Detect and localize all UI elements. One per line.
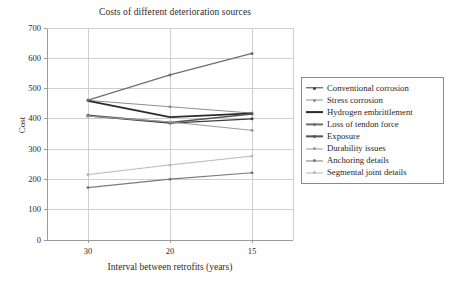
y-tick-label: 100: [11, 204, 41, 214]
data-point: [251, 52, 254, 55]
y-tick-label: 0: [11, 235, 41, 245]
legend-item-durability-issues[interactable]: Durability issues: [306, 142, 440, 154]
data-point: [87, 99, 90, 102]
legend-label: Conventional corrosion: [327, 83, 409, 94]
legend-label: Hydrogen embrittlement: [327, 107, 413, 118]
x-tick-label: 20: [155, 246, 185, 256]
y-tick-label: 300: [11, 144, 41, 154]
legend-label: Durability issues: [327, 143, 386, 154]
data-point: [251, 171, 254, 174]
legend-label: Stress corrosion: [327, 95, 383, 106]
chart-figure: Costs of different deterioration sources…: [0, 0, 456, 287]
legend-swatch-icon: [306, 131, 323, 142]
legend-item-stress-corrosion[interactable]: Stress corrosion: [306, 94, 440, 106]
data-point: [251, 113, 254, 116]
data-point: [87, 173, 90, 176]
legend-swatch-icon: [306, 83, 323, 94]
data-point: [87, 115, 90, 118]
data-point: [87, 186, 90, 189]
legend-label: Anchoring details: [327, 155, 389, 166]
legend-swatch-icon: [306, 143, 323, 154]
legend-swatch-icon: [306, 155, 323, 166]
legend-label: Segmental joint details: [327, 167, 407, 178]
data-point: [251, 129, 254, 132]
legend-label: Exposure: [327, 131, 360, 142]
legend-swatch-icon: [306, 107, 323, 118]
data-point: [169, 73, 172, 76]
data-point: [251, 155, 254, 158]
y-tick-label: 400: [11, 113, 41, 123]
legend-item-loss-of-tendon-force[interactable]: Loss of tendon force: [306, 118, 440, 130]
legend-label: Loss of tendon force: [327, 119, 399, 130]
y-tick-label: 200: [11, 174, 41, 184]
y-tick-label: 500: [11, 83, 41, 93]
legend-swatch-icon: [306, 167, 323, 178]
x-tick-label: 15: [237, 246, 267, 256]
data-point: [169, 120, 172, 123]
x-tick-label: 30: [73, 246, 103, 256]
legend-swatch-icon: [306, 119, 323, 130]
data-point: [169, 105, 172, 108]
legend-swatch-icon: [306, 95, 323, 106]
data-point: [251, 117, 254, 120]
data-point: [169, 178, 172, 181]
y-tick-label: 600: [11, 53, 41, 63]
legend-item-hydrogen-embrittlement[interactable]: Hydrogen embrittlement: [306, 106, 440, 118]
legend-item-segmental-joint-details[interactable]: Segmental joint details: [306, 167, 440, 179]
legend-item-conventional-corrosion[interactable]: Conventional corrosion: [306, 82, 440, 94]
axis-frame: [44, 28, 293, 243]
legend-item-anchoring-details[interactable]: Anchoring details: [306, 155, 440, 167]
legend-item-exposure[interactable]: Exposure: [306, 130, 440, 142]
grid-lines: [47, 28, 293, 240]
y-tick-label: 700: [11, 23, 41, 33]
chart-legend[interactable]: Conventional corrosionStress corrosionHy…: [301, 77, 444, 184]
data-point: [169, 163, 172, 166]
